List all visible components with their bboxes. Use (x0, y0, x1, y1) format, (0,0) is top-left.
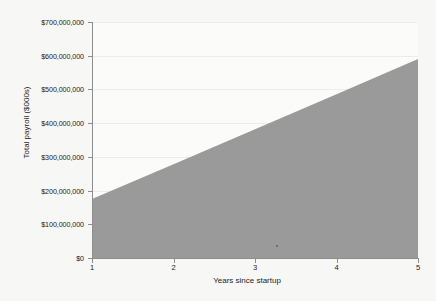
y-tick-label: $0 (76, 254, 84, 263)
x-tick-label: 2 (171, 263, 175, 272)
y-tick-mark (88, 89, 92, 90)
x-tick-label: 1 (90, 263, 94, 272)
x-tick-label: 5 (416, 263, 420, 272)
y-axis-line (92, 22, 93, 259)
y-tick-label: $400,000,000 (41, 119, 84, 128)
x-tick-label: 4 (334, 263, 338, 272)
plot-area (92, 22, 418, 258)
y-tick-mark (88, 157, 92, 158)
y-tick-label: $600,000,000 (41, 51, 84, 60)
y-tick-label: $300,000,000 (41, 152, 84, 161)
y-tick-label: $700,000,000 (41, 18, 84, 27)
x-axis-title: Years since startup (0, 276, 436, 285)
stray-speck (276, 245, 278, 247)
area-chart: $0$100,000,000$200,000,000$300,000,000$4… (0, 0, 436, 301)
y-tick-mark (88, 191, 92, 192)
y-tick-label: $100,000,000 (41, 220, 84, 229)
y-tick-mark (88, 56, 92, 57)
y-tick-mark (88, 224, 92, 225)
y-tick-mark (88, 123, 92, 124)
y-axis-title: Total payroll ($000s) (22, 53, 31, 193)
y-tick-label: $200,000,000 (41, 186, 84, 195)
area-series-fill (92, 22, 418, 258)
x-tick-label: 3 (253, 263, 257, 272)
y-tick-mark (88, 22, 92, 23)
y-tick-label: $500,000,000 (41, 85, 84, 94)
